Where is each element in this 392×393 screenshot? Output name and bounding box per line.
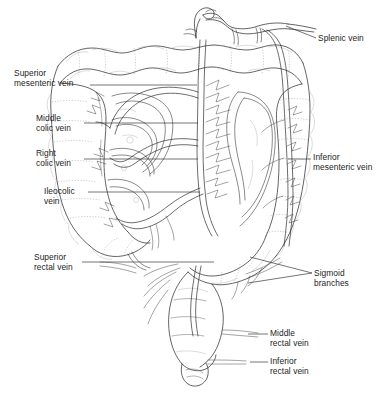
label-right-colic-vein: Right colic vein bbox=[36, 148, 71, 168]
label-superior-mesenteric-vein: Superior mesenteric vein bbox=[14, 68, 73, 88]
jejunal-loops bbox=[227, 92, 276, 226]
cecum bbox=[90, 232, 150, 270]
label-ileocolic-vein: Ileocolic vein bbox=[44, 186, 75, 206]
small-intestine-loops bbox=[108, 93, 173, 210]
transverse-colon bbox=[58, 45, 303, 84]
sigmoid-colon bbox=[188, 236, 282, 299]
label-inferior-rectal-vein: Inferior rectal vein bbox=[270, 356, 309, 376]
anatomical-figure: Superior mesenteric vein Middle colic ve… bbox=[0, 0, 392, 393]
inferior-mesenteric-vein bbox=[262, 29, 302, 246]
label-middle-colic-vein: Middle colic vein bbox=[36, 113, 71, 133]
label-sigmoid-branches: Sigmoid branches bbox=[314, 268, 349, 288]
portal-vein-group bbox=[184, 8, 316, 45]
label-superior-rectal-vein: Superior rectal vein bbox=[34, 252, 73, 272]
label-middle-rectal-vein: Middle rectal vein bbox=[270, 328, 309, 348]
label-splenic-vein: Splenic vein bbox=[318, 33, 364, 43]
label-inferior-mesenteric-vein: Inferior mesenteric vein bbox=[313, 152, 372, 172]
superior-mesenteric-vein bbox=[87, 40, 230, 250]
